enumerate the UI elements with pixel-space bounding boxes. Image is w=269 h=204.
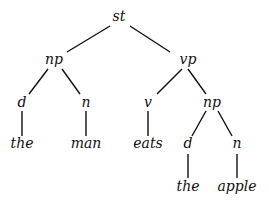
tree-nodes: stnpvpdnvnpthemaneatsdntheapple (11, 8, 257, 194)
node-the2: the (177, 178, 200, 194)
parse-tree-diagram: stnpvpdnvnpthemaneatsdntheapple (0, 0, 269, 204)
node-vp: vp (180, 51, 197, 67)
node-st: st (113, 8, 126, 24)
edge-vp-np2 (188, 69, 206, 94)
node-apple: apple (217, 178, 256, 194)
node-eats: eats (133, 135, 162, 151)
edge-st-np1 (67, 26, 110, 52)
edge-np1-n1 (62, 69, 80, 94)
edge-np2-n2 (218, 111, 232, 136)
edge-np1-d1 (29, 69, 48, 94)
node-n1: n (81, 94, 90, 110)
node-np2: np (203, 94, 221, 110)
node-man: man (71, 135, 102, 151)
node-the1: the (11, 135, 34, 151)
edge-vp-v (157, 69, 182, 94)
node-d2: d (184, 135, 193, 151)
node-v: v (144, 94, 152, 110)
edge-st-vp (130, 26, 170, 52)
node-d1: d (18, 94, 27, 110)
edge-np2-d2 (192, 111, 206, 136)
node-np1: np (45, 51, 63, 67)
node-n2: n (232, 135, 241, 151)
